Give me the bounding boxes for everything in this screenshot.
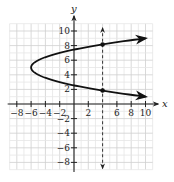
y-axis-label: y <box>70 3 77 14</box>
x-tick-label: 6 <box>114 108 120 118</box>
intersection-point <box>100 88 105 93</box>
y-tick-label: 10 <box>59 26 71 36</box>
y-tick-label: 4 <box>64 70 70 80</box>
intersection-point <box>100 42 105 47</box>
y-tick-label: 2 <box>64 84 70 94</box>
chart: −8−6−4−226810−8−6−4−2246810 x y <box>0 0 174 182</box>
y-tick-label: 8 <box>64 41 70 51</box>
x-tick-label: 10 <box>140 108 152 118</box>
x-tick-label: −8 <box>10 108 24 118</box>
y-tick-label: −2 <box>57 114 70 124</box>
x-tick-label: 8 <box>128 108 134 118</box>
y-tick-label: −6 <box>57 143 71 153</box>
x-tick-label: −6 <box>24 108 38 118</box>
grid <box>10 24 153 170</box>
x-tick-label: −4 <box>39 108 53 118</box>
x-tick-label: 2 <box>85 108 91 118</box>
y-tick-label: 6 <box>64 55 70 65</box>
y-tick-label: −4 <box>57 128 71 138</box>
y-tick-label: −8 <box>57 157 71 167</box>
x-axis-label: x <box>162 98 168 109</box>
